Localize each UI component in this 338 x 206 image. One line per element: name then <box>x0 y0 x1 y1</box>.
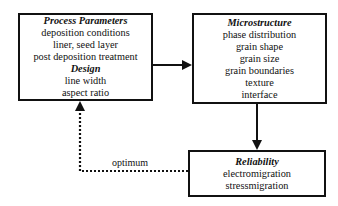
microstructure-item: texture <box>194 77 325 89</box>
reliability-item: stressmigration <box>190 180 324 192</box>
microstructure-item: grain shape <box>194 41 325 53</box>
design-item: line width <box>20 75 151 87</box>
process-item: deposition conditions <box>20 27 151 39</box>
design-title: Design <box>20 63 151 75</box>
microstructure-item: grain boundaries <box>194 65 325 77</box>
microstructure-item: phase distribution <box>194 29 325 41</box>
process-parameters-box: Process Parameters deposition conditions… <box>18 13 153 101</box>
microstructure-box: Microstructure phase distribution grain … <box>192 13 327 104</box>
optimum-label: optimum <box>112 157 148 168</box>
arrowhead-reliability <box>252 140 262 150</box>
process-item: post deposition treatment <box>20 51 151 63</box>
reliability-box: Reliability electromigration stressmigra… <box>188 150 326 197</box>
microstructure-item: grain size <box>194 53 325 65</box>
reliability-item: electromigration <box>190 168 324 180</box>
design-item: aspect ratio <box>20 87 151 99</box>
reliability-title: Reliability <box>190 156 324 168</box>
process-title: Process Parameters <box>20 15 151 27</box>
arrowhead-microstructure <box>182 60 192 70</box>
microstructure-item: interface <box>194 89 325 101</box>
arrowhead-process <box>75 101 85 111</box>
microstructure-title: Microstructure <box>194 17 325 29</box>
process-item: liner, seed layer <box>20 39 151 51</box>
